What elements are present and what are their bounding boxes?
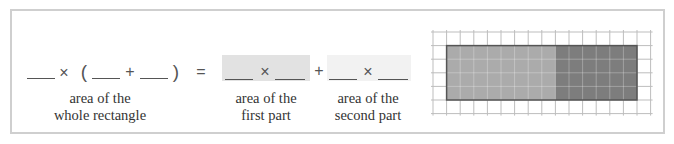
whole-label-line2: whole rectangle [40,107,160,124]
second-part-width-blank[interactable] [378,79,408,80]
whole-width-part2-blank[interactable] [140,78,168,79]
first-part-times-sign: × [258,64,272,80]
equals-sign: = [193,64,209,80]
second-part-times-sign: × [361,64,375,80]
first-part-label-line2: first part [216,107,316,124]
close-paren: ) [170,62,182,81]
area-grid-figure [428,27,660,123]
second-part-label-line1: area of the [318,90,418,107]
plus-sign: + [123,64,137,80]
first-part-width-blank[interactable] [275,79,305,80]
second-part-length-blank[interactable] [329,79,357,80]
times-sign: × [57,65,71,81]
open-paren: ( [78,62,90,81]
parts-plus-sign: + [312,63,326,79]
first-part-label-line1: area of the [216,90,316,107]
whole-label-line1: area of the [40,90,160,107]
whole-width-part1-blank[interactable] [92,78,120,79]
second-part-label-line2: second part [318,107,418,124]
first-part-length-blank[interactable] [225,79,253,80]
whole-length-blank[interactable] [27,78,55,79]
